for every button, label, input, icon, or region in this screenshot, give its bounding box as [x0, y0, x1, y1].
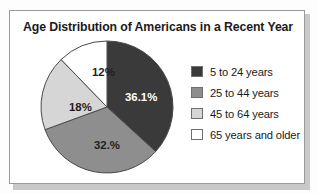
- pie-slice-data-label: 18%: [69, 101, 92, 113]
- pie-slice-data-label: 32.%: [94, 139, 120, 151]
- pie-svg: 36.1%32.%18%12%: [39, 39, 175, 175]
- legend-item-label: 25 to 44 years: [210, 87, 279, 99]
- legend-item: 25 to 44 years: [191, 82, 303, 103]
- legend-swatch-icon: [191, 129, 203, 140]
- legend-item: 65 years and older: [191, 124, 303, 145]
- pie-slice-data-label: 36.1%: [125, 91, 157, 103]
- legend-item: 5 to 24 years: [191, 61, 303, 82]
- legend-swatch-icon: [191, 66, 203, 77]
- pie-slice-group: [41, 41, 173, 173]
- legend-item: 45 to 64 years: [191, 103, 303, 124]
- chart-title: Age Distribution of Americans in a Recen…: [10, 20, 306, 34]
- chart-panel: Age Distribution of Americans in a Recen…: [9, 10, 305, 184]
- legend-swatch-icon: [191, 108, 203, 119]
- pie-chart-figure: Age Distribution of Americans in a Recen…: [0, 0, 317, 194]
- chart-legend: 5 to 24 years25 to 44 years45 to 64 year…: [191, 61, 303, 145]
- legend-item-label: 5 to 24 years: [210, 66, 273, 78]
- legend-swatch-icon: [191, 87, 203, 98]
- pie-graphic: 36.1%32.%18%12%: [39, 39, 175, 175]
- legend-item-label: 65 years and older: [210, 129, 300, 141]
- pie-slice-data-label: 12%: [92, 66, 115, 78]
- legend-item-label: 45 to 64 years: [210, 108, 279, 120]
